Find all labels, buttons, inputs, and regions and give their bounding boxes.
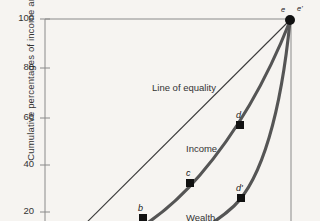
point-label-c: c — [186, 168, 191, 178]
y-tick-label-100: 100 — [8, 12, 34, 23]
plot-area — [0, 0, 320, 221]
wealth-label: Wealth — [186, 212, 215, 221]
y-tick-label-20: 20 — [8, 205, 34, 216]
marker-point-c — [186, 179, 194, 187]
marker-point-b — [139, 214, 147, 221]
point-label-d: d — [236, 110, 241, 120]
y-tick-label-60: 60 — [8, 111, 34, 122]
point-label-e: e — [281, 5, 285, 14]
marker-point-d — [236, 121, 244, 129]
income-label: Income — [186, 143, 217, 154]
point-label-d-prime: d' — [236, 183, 243, 193]
y-tick-label-80: 80 — [8, 61, 34, 72]
point-label-b: b — [138, 203, 143, 213]
line-of-equality-label: Line of equality — [152, 82, 216, 93]
point-label-e-prime: e' — [297, 4, 303, 13]
y-tick-label-40: 40 — [8, 158, 34, 169]
figure-background — [0, 0, 320, 221]
marker-point-d-prime — [237, 194, 245, 202]
marker-point-e — [285, 15, 295, 25]
lorenz-curve-figure: Cumulative percentages of income and wea… — [0, 0, 320, 221]
